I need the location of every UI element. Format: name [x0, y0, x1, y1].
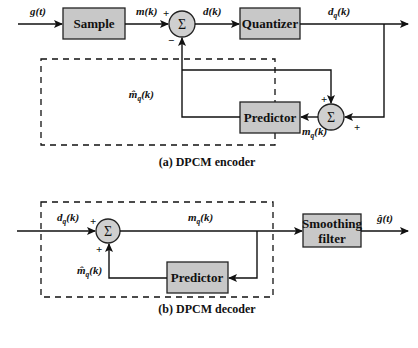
sample-block-label: Sample	[73, 16, 114, 31]
quantizer-block-label: Quantizer	[242, 16, 299, 31]
sigma-symbol: Σ	[178, 17, 186, 32]
encoder-caption: (a) DPCM encoder	[159, 155, 256, 169]
decoder: dq(k) Σ + + mq(k) Predictor m̂q(k) Smoot…	[17, 202, 408, 316]
difference-signal-label: d(k)	[203, 5, 221, 18]
decoder-summer: Σ	[96, 219, 120, 243]
smoothing-filter-label-line2: filter	[318, 231, 346, 246]
dpcm-diagram: g(t) Sample m(k) Σ + − d(k) Quantizer dq…	[0, 0, 418, 348]
decoder-predicted-label: m̂q(k)	[77, 264, 102, 279]
sum1-plus-sign: +	[163, 7, 169, 19]
sum1-minus-sign: −	[168, 34, 174, 46]
reconstructed-signal-label: mq(k)	[302, 125, 327, 140]
encoder: g(t) Sample m(k) Σ + − d(k) Quantizer dq…	[18, 5, 408, 169]
quantized-output-label: dq(k)	[328, 5, 350, 20]
decoder-predictor-label: Predictor	[171, 270, 224, 285]
quantized-feedback-arrow	[345, 24, 384, 117]
quantizer-block: Quantizer	[240, 8, 300, 39]
decoder-prediction-arrow	[109, 244, 167, 278]
encoder-predictor-label: Predictor	[244, 110, 297, 125]
predicted-signal-label: m̂q(k)	[129, 88, 154, 103]
sample-block: Sample	[63, 8, 125, 39]
prediction-to-sum1-arrow	[182, 38, 240, 117]
sampled-signal-label: m(k)	[136, 5, 157, 18]
decoder-caption: (b) DPCM decoder	[158, 302, 256, 316]
decoder-sum-plus-left-sign: +	[90, 215, 96, 227]
sum2-plus-top-sign: +	[321, 93, 327, 105]
prediction-to-sum2-arrow	[182, 70, 331, 103]
sigma-symbol: Σ	[327, 110, 335, 125]
smoothing-filter-block: Smoothing filter	[302, 214, 362, 247]
sigma-symbol: Σ	[104, 224, 112, 239]
decoder-output-label: ĝ(t)	[376, 212, 393, 225]
encoder-predictor-block: Predictor	[240, 102, 300, 133]
decoder-sum-plus-bottom-sign: +	[96, 243, 102, 255]
encoder-input-label: g(t)	[29, 5, 46, 18]
decoder-predictor-block: Predictor	[167, 262, 228, 293]
sum2-plus-right-sign: +	[354, 121, 360, 133]
decoder-reconstructed-label: mq(k)	[188, 211, 213, 226]
smoothing-filter-label-line1: Smoothing	[302, 216, 362, 231]
decoder-input-label: dq(k)	[57, 211, 79, 226]
decoder-feedback-arrow	[229, 231, 257, 278]
